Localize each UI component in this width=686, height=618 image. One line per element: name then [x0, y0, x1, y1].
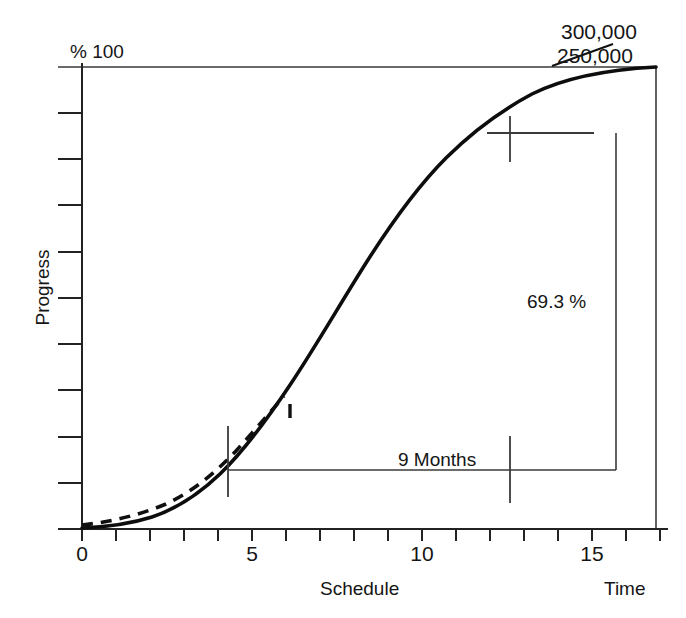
duration-annotation: 9 Months — [398, 450, 476, 469]
x-axis-end-label: Time — [604, 579, 646, 598]
progress-s-curve-chart: % 100 300,000 250,000 69.3 % 9 Months Pr… — [0, 0, 686, 618]
budget-revised-label: 300,000 — [561, 21, 637, 42]
progress-percent-annotation: 69.3 % — [527, 292, 586, 311]
y-axis-title: Progress — [33, 228, 52, 348]
budget-superseded-label: 250,000 — [557, 45, 633, 66]
x-axis-ticks — [82, 529, 660, 541]
x-tick-label-0: 0 — [62, 543, 102, 564]
x-tick-label-15: 15 — [572, 543, 612, 564]
y-axis-unit-label: % 100 — [70, 42, 124, 61]
x-axis-title: Schedule — [320, 579, 399, 598]
end-marker-crosshair — [487, 116, 594, 162]
x-tick-label-5: 5 — [232, 543, 272, 564]
y-axis-ticks — [58, 113, 82, 483]
planned-progress-curve — [82, 396, 284, 525]
x-tick-label-10: 10 — [402, 543, 442, 564]
